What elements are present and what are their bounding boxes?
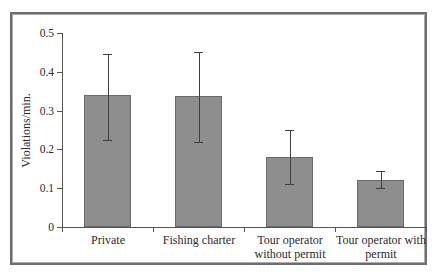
error-bar-cap-top: [194, 52, 203, 53]
error-bar-cap-bottom: [103, 140, 112, 141]
y-axis-tick: [57, 188, 62, 189]
bar-chart: Violations/min. 00.10.20.30.40.5PrivateF…: [0, 0, 441, 277]
error-bar-cap-bottom: [285, 184, 294, 185]
y-tick-label: 0.2: [24, 142, 54, 156]
y-axis-tick: [57, 149, 62, 150]
category-label: Tour operator with permit: [335, 234, 427, 261]
x-axis-tick: [62, 228, 63, 232]
category-label: Tour operator without permit: [244, 234, 336, 261]
x-axis-tick: [153, 228, 154, 232]
y-tick-label: 0.3: [24, 104, 54, 118]
y-tick-label: 0: [24, 220, 54, 234]
error-bar: [381, 171, 382, 188]
error-bar: [199, 52, 200, 142]
y-axis-tick: [57, 111, 62, 112]
x-axis-tick: [244, 228, 245, 232]
x-axis-tick: [426, 228, 427, 232]
y-axis: [62, 33, 63, 228]
error-bar-cap-bottom: [376, 188, 385, 189]
y-tick-label: 0.4: [24, 65, 54, 79]
category-label: Private: [62, 234, 154, 248]
error-bar: [290, 130, 291, 184]
y-tick-label: 0.1: [24, 181, 54, 195]
y-axis-title: Violations/min.: [19, 71, 34, 191]
y-axis-tick: [57, 72, 62, 73]
error-bar-cap-top: [103, 54, 112, 55]
x-axis-tick: [335, 228, 336, 232]
error-bar-cap-bottom: [194, 142, 203, 143]
error-bar-cap-top: [285, 130, 294, 131]
y-tick-label: 0.5: [24, 26, 54, 40]
y-axis-tick: [57, 33, 62, 34]
error-bar-cap-top: [376, 171, 385, 172]
category-label: Fishing charter: [153, 234, 245, 248]
error-bar: [108, 54, 109, 140]
